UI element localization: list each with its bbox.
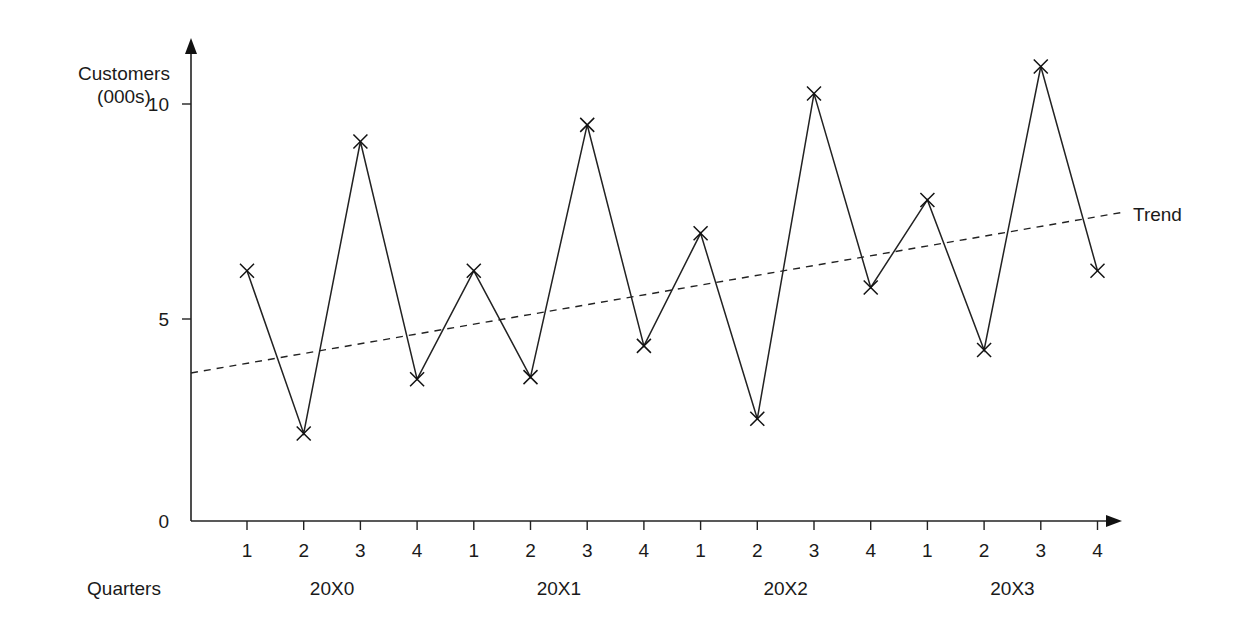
y-axis-arrow-icon [185, 38, 197, 54]
x-axis-arrow-icon [1106, 515, 1122, 527]
x-marker-icon [864, 280, 878, 294]
axis-labels: 0510Customers(000s)123412341234123420X02… [78, 63, 1182, 599]
x-marker-icon [240, 264, 254, 278]
customers-line [247, 67, 1098, 434]
seasonal-trend-chart: 0510Customers(000s)123412341234123420X02… [0, 0, 1251, 637]
year-label: 20X1 [537, 578, 581, 599]
x-marker-icon [750, 412, 764, 426]
quarter-label: 4 [1092, 540, 1103, 561]
quarter-label: 2 [525, 540, 536, 561]
quarter-label: 1 [242, 540, 253, 561]
year-label: 20X3 [990, 578, 1034, 599]
x-marker-icon [694, 226, 708, 240]
quarter-label: 4 [412, 540, 423, 561]
year-label: 20X2 [763, 578, 807, 599]
quarter-label: 3 [355, 540, 366, 561]
quarter-label: 2 [979, 540, 990, 561]
x-axis-title: Quarters [87, 578, 161, 599]
quarter-label: 4 [639, 540, 650, 561]
y-tick-label: 10 [148, 94, 169, 115]
y-axis-title-line-1: Customers [78, 63, 170, 84]
y-tick-label: 0 [158, 511, 169, 532]
quarter-label: 1 [922, 540, 933, 561]
x-marker-icon [1091, 264, 1105, 278]
x-marker-icon [807, 87, 821, 101]
quarter-label: 4 [865, 540, 876, 561]
x-marker-icon [524, 370, 538, 384]
x-marker-icon [297, 426, 311, 440]
y-axis-title-line-2: (000s) [97, 86, 151, 107]
x-marker-icon [977, 343, 991, 357]
quarter-label: 1 [695, 540, 706, 561]
x-marker-icon [1034, 59, 1048, 73]
x-marker-icon [920, 193, 934, 207]
axes [182, 38, 1122, 530]
chart-canvas: 0510Customers(000s)123412341234123420X02… [0, 0, 1251, 637]
trend-label: Trend [1133, 204, 1182, 225]
quarter-label: 2 [298, 540, 309, 561]
x-marker-icon [410, 372, 424, 386]
x-marker-icon [637, 339, 651, 353]
quarter-label: 3 [582, 540, 593, 561]
y-tick-label: 5 [158, 309, 169, 330]
x-marker-icon [353, 135, 367, 149]
x-marker-icon [580, 118, 594, 132]
year-label: 20X0 [310, 578, 354, 599]
quarter-label: 1 [469, 540, 480, 561]
quarter-label: 3 [1036, 540, 1047, 561]
x-marker-icon [467, 264, 481, 278]
customers-series [240, 59, 1105, 440]
quarter-label: 3 [809, 540, 820, 561]
quarter-label: 2 [752, 540, 763, 561]
